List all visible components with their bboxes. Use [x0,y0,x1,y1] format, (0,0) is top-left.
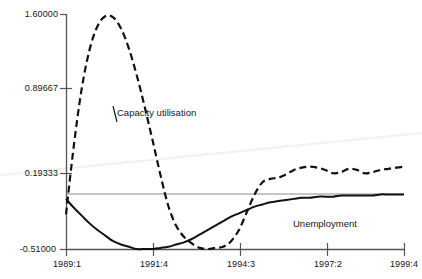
x-tick-label-5: 1999:4 [376,259,422,270]
y-tick-label-1: 1.60000 [4,9,58,20]
scan-artifact-line [0,133,422,175]
chart-figure: 1.60000 0.89667 0.19333 -0.51000 1989:1 … [0,0,422,279]
y-tick-label-2: 0.89667 [4,83,58,94]
capacity-utilisation-annotation: Capacity utilisation [117,107,196,118]
data-series-group [66,15,404,249]
y-tick-label-4: -0.51000 [2,244,56,255]
unemployment-annotation: Unemployment [293,218,357,229]
x-tick-label-3: 1994:3 [213,259,269,270]
x-tick-label-1: 1989:1 [39,259,95,270]
chart-plot-area [0,0,422,279]
y-tick-label-3: 0.19333 [4,168,58,179]
x-tick-label-2: 1991:4 [126,259,182,270]
x-tick-label-4: 1997:2 [300,259,356,270]
